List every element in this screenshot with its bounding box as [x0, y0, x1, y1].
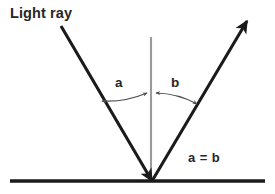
reflection-diagram-svg — [0, 0, 275, 194]
light-ray-label: Light ray — [10, 6, 72, 21]
reflection-diagram-canvas: Light ray a b a = b — [0, 0, 275, 194]
angle-equality-label: a = b — [188, 151, 220, 164]
angle-a-arc — [102, 93, 147, 101]
angle-b-label: b — [171, 76, 179, 90]
angle-a-label: a — [115, 76, 123, 90]
angle-b-arc — [156, 93, 197, 104]
incident-ray — [61, 26, 152, 181]
